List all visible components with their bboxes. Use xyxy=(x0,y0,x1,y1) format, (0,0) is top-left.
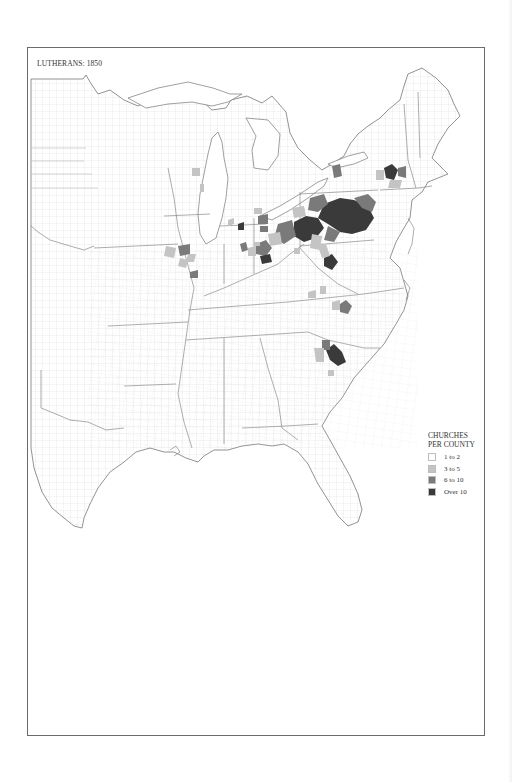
legend-item-3-to-5: 3 to 5 xyxy=(428,464,498,474)
county-grid xyxy=(88,248,418,448)
legend-item-over-10: Over 10 xyxy=(428,487,498,497)
legend-label: 1 to 2 xyxy=(444,453,460,461)
legend-item-6-to-10: 6 to 10 xyxy=(428,475,498,485)
legend-title-line2: PER COUNTY xyxy=(428,441,498,450)
legend-title: CHURCHES PER COUNTY xyxy=(428,432,498,449)
page-edge xyxy=(508,0,512,782)
legend-item-1-to-2: 1 to 2 xyxy=(428,452,498,462)
legend: CHURCHES PER COUNTY 1 to 2 3 to 5 6 to 1… xyxy=(428,432,498,498)
map-frame: LUTHERANS: 1850 xyxy=(27,47,485,736)
legend-label: 3 to 5 xyxy=(444,465,460,473)
legend-label: 6 to 10 xyxy=(444,476,463,484)
eastern-us-map xyxy=(28,48,486,737)
swatch-3-to-5 xyxy=(428,465,436,473)
swatch-over-10 xyxy=(428,488,436,496)
swatch-1-to-2 xyxy=(428,453,436,461)
legend-label: Over 10 xyxy=(444,488,467,496)
swatch-6-to-10 xyxy=(428,476,436,484)
